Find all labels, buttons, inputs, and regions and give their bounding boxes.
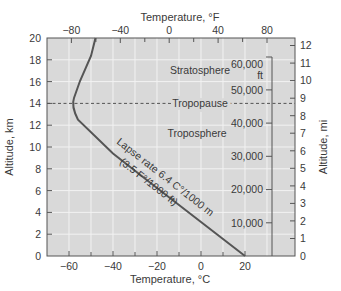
f-label: 40 — [212, 24, 224, 36]
x-axis-title-celsius: Temperature, °C — [130, 273, 210, 285]
km-label: 2 — [35, 228, 41, 240]
km-label: 0 — [35, 250, 41, 262]
celsius-tick-labels: −60 −40 −20 0 20 — [60, 260, 251, 272]
mi-label: 5 — [300, 162, 306, 174]
f-label: 80 — [261, 24, 273, 36]
mi-label: 7 — [300, 127, 306, 139]
km-label: 4 — [35, 206, 41, 218]
mi-label: 2 — [300, 215, 306, 227]
km-label: 12 — [29, 119, 41, 131]
tropopause-label: Tropopause — [172, 97, 228, 109]
mi-label: 9 — [300, 92, 306, 104]
mi-label: 0 — [300, 250, 306, 262]
y-axis-title-km: Altitude, km — [3, 118, 15, 175]
mi-label: 4 — [300, 180, 306, 192]
c-label: 0 — [198, 260, 204, 272]
mi-label: 8 — [300, 110, 306, 122]
feet-label-50000: 50,000 — [231, 84, 263, 96]
km-label: 16 — [29, 76, 41, 88]
feet-label-30000: 30,000 — [231, 150, 263, 162]
km-label: 20 — [29, 32, 41, 44]
y-axis-title-mi: Altitude, mi — [317, 120, 329, 174]
feet-label-40000: 40,000 — [231, 117, 263, 129]
km-label: 6 — [35, 185, 41, 197]
mi-label: 11 — [300, 57, 311, 69]
mi-label: 3 — [300, 197, 306, 209]
c-label: −20 — [148, 260, 166, 272]
c-label: −60 — [60, 260, 78, 272]
km-label: 14 — [29, 97, 41, 109]
x-axis-title-fahrenheit: Temperature, °F — [141, 11, 220, 23]
mi-label: 6 — [300, 145, 306, 157]
mi-label: 12 — [300, 39, 312, 51]
km-label: 8 — [35, 163, 41, 175]
c-label: −40 — [104, 260, 122, 272]
c-label: 20 — [239, 260, 251, 272]
stratosphere-label: Stratosphere — [170, 64, 230, 76]
f-label: −80 — [62, 24, 80, 36]
km-label: 18 — [29, 54, 41, 66]
fahrenheit-tick-labels: −80 −40 0 40 80 — [62, 24, 273, 36]
mi-label: 10 — [300, 74, 312, 86]
km-label: 10 — [29, 141, 41, 153]
km-tick-labels: 0 2 4 6 8 10 12 14 16 18 20 — [29, 32, 41, 262]
feet-unit-label: ft — [257, 69, 263, 81]
f-label: 0 — [166, 24, 172, 36]
atmosphere-temperature-chart: Stratosphere Tropopause Troposphere Laps… — [0, 0, 341, 291]
feet-label-20000: 20,000 — [231, 183, 263, 195]
feet-label-10000: 10,000 — [231, 217, 263, 229]
mile-tick-labels: 0 1 2 3 4 5 6 7 8 9 10 11 12 — [300, 39, 312, 262]
f-label: −40 — [111, 24, 129, 36]
mi-label: 1 — [300, 232, 306, 244]
troposphere-label: Troposphere — [167, 127, 226, 139]
